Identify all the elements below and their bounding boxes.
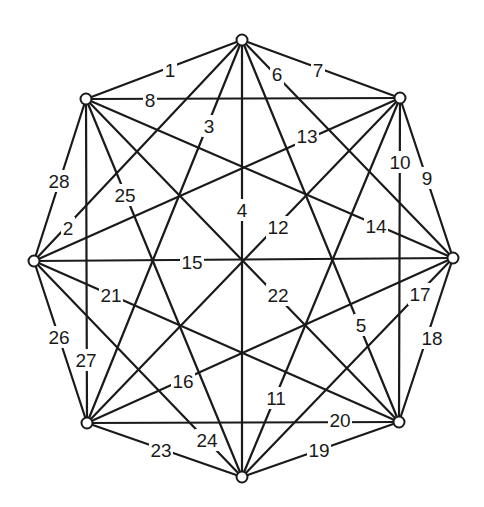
vertex-ll bbox=[82, 418, 93, 429]
vertex-t bbox=[237, 35, 248, 46]
edge-label-18: 18 bbox=[421, 328, 442, 349]
edge-label-26: 26 bbox=[48, 327, 69, 348]
k8-graph-diagram: 1234567891011121314151617181920212223242… bbox=[0, 0, 484, 507]
edge-label-17: 17 bbox=[409, 284, 430, 305]
vertex-b bbox=[237, 472, 248, 483]
edge-21 bbox=[34, 261, 399, 422]
edge-label-5: 5 bbox=[356, 315, 367, 336]
vertex-l bbox=[29, 256, 40, 267]
edge-label-22: 22 bbox=[267, 285, 288, 306]
edge-10 bbox=[399, 98, 400, 422]
edge-3 bbox=[87, 40, 242, 423]
edge-label-27: 27 bbox=[75, 350, 96, 371]
edge-11 bbox=[242, 98, 400, 477]
edges-layer bbox=[34, 40, 453, 477]
edge-label-13: 13 bbox=[296, 126, 317, 147]
edge-label-2: 2 bbox=[63, 218, 74, 239]
vertex-r bbox=[448, 253, 459, 264]
edge-label-1: 1 bbox=[165, 60, 176, 81]
vertex-ur bbox=[395, 93, 406, 104]
edge-label-16: 16 bbox=[172, 371, 193, 392]
edge-label-7: 7 bbox=[313, 60, 324, 81]
edge-label-11: 11 bbox=[266, 388, 286, 409]
edge-label-4: 4 bbox=[237, 200, 248, 221]
edge-label-23: 23 bbox=[150, 440, 171, 461]
edge-label-3: 3 bbox=[204, 116, 215, 137]
edge-label-28: 28 bbox=[48, 171, 69, 192]
edge-label-19: 19 bbox=[308, 440, 329, 461]
edge-label-20: 20 bbox=[329, 410, 350, 431]
edge-label-10: 10 bbox=[389, 152, 410, 173]
edge-label-9: 9 bbox=[422, 168, 433, 189]
edge-label-8: 8 bbox=[145, 90, 156, 111]
edge-8 bbox=[86, 98, 400, 99]
edge-label-14: 14 bbox=[365, 216, 387, 237]
vertex-ul bbox=[81, 94, 92, 105]
edge-label-15: 15 bbox=[181, 252, 202, 273]
vertex-lr bbox=[394, 417, 405, 428]
edge-13 bbox=[34, 98, 400, 261]
edge-label-24: 24 bbox=[196, 430, 218, 451]
edge-label-6: 6 bbox=[272, 64, 283, 85]
edge-label-21: 21 bbox=[100, 285, 121, 306]
edge-label-25: 25 bbox=[114, 185, 135, 206]
edge-27 bbox=[86, 99, 87, 423]
edge-label-12: 12 bbox=[267, 217, 288, 238]
edge-20 bbox=[87, 422, 399, 423]
